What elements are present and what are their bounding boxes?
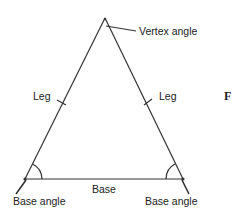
apex-vertex (104, 18, 106, 20)
vertex-angle-label: Vertex angle (139, 25, 198, 37)
triangle (16, 18, 189, 194)
left-base-angle-pointer (16, 180, 26, 194)
left-base-angle-arc (33, 164, 43, 179)
isosceles-triangle-diagram: Vertex angle Leg Leg Base Base angle Bas… (0, 0, 234, 222)
right-base-angle-pointer (182, 180, 189, 194)
right-leg-label: Leg (159, 90, 177, 102)
base-label: Base (92, 183, 116, 195)
left-base-vertex (23, 177, 26, 180)
figure-label-fragment: F (224, 89, 231, 103)
right-base-angle-label: Base angle (145, 195, 198, 207)
right-base-vertex (181, 177, 184, 180)
right-base-angle-arc (166, 164, 175, 179)
left-base-angle-label: Base angle (13, 195, 66, 207)
left-leg-label: Leg (33, 90, 51, 102)
